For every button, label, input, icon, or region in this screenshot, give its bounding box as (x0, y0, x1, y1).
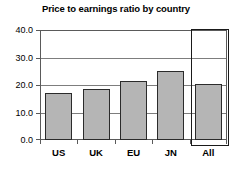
x-tick-mark (40, 140, 41, 144)
x-tick-mark (226, 140, 227, 144)
y-tick-label: 40.0 (15, 26, 33, 35)
x-tick-mark (152, 140, 153, 144)
x-tick-label-all: All (202, 147, 214, 158)
bar-us[interactable] (45, 93, 72, 140)
bar-all[interactable] (195, 84, 222, 140)
x-tick-label-uk: UK (89, 147, 103, 158)
x-tick-mark (190, 140, 191, 144)
bar-eu[interactable] (120, 81, 147, 140)
chart-title: Price to earnings ratio by country (0, 3, 232, 14)
bar-uk[interactable] (83, 89, 110, 140)
bar-jn[interactable] (157, 71, 184, 140)
x-tick-label-us: US (52, 147, 65, 158)
y-tick-label: 0.0 (20, 136, 33, 145)
x-axis: USUKEUJNAll (40, 140, 227, 170)
x-tick-mark (77, 140, 78, 144)
y-tick-label: 20.0 (15, 81, 33, 90)
bars-layer (40, 30, 227, 140)
y-axis: 0.010.020.030.040.0 (0, 30, 40, 140)
chart-container: Price to earnings ratio by country 0.010… (0, 0, 232, 177)
y-tick-label: 30.0 (15, 53, 33, 62)
x-tick-label-eu: EU (127, 147, 140, 158)
y-tick-label: 10.0 (15, 108, 33, 117)
x-tick-label-jn: JN (165, 147, 177, 158)
x-tick-mark (115, 140, 116, 144)
